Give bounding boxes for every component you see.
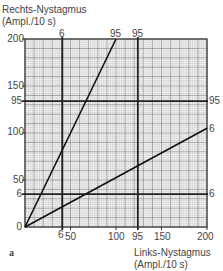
panel-label: a bbox=[9, 247, 14, 258]
hline-label-6-left: 6 bbox=[16, 189, 22, 199]
hline-label-6-right: 6 bbox=[209, 189, 215, 199]
y-tick-200: 200 bbox=[7, 34, 24, 44]
y-tick-150: 150 bbox=[7, 81, 24, 91]
vline-label-95-top: 95 bbox=[132, 29, 143, 39]
y-tick-100: 100 bbox=[7, 127, 24, 137]
hline-label-95-right: 95 bbox=[209, 96, 220, 106]
x-axis-title-line1: Links-Nystagmus bbox=[134, 247, 211, 258]
x-tick-150: 150 bbox=[154, 232, 171, 242]
vline-label-95-bottom: 95 bbox=[132, 232, 143, 242]
series-label-6-end: 6 bbox=[209, 124, 215, 134]
origin-label: 0 bbox=[16, 222, 22, 232]
x-tick-50: 50 bbox=[65, 232, 76, 242]
series-label-95-top: 95 bbox=[110, 29, 121, 39]
x-tick-100: 100 bbox=[108, 232, 125, 242]
x-axis-title-line2: (Ampl./10 s) bbox=[134, 259, 188, 270]
y-tick-50: 50 bbox=[13, 175, 24, 185]
vline-label-6-top: 6 bbox=[59, 29, 65, 39]
vline-label-6-bottom: 6 bbox=[58, 230, 64, 240]
x-tick-200: 200 bbox=[197, 232, 214, 242]
hline-label-95-left: 95 bbox=[11, 96, 22, 106]
